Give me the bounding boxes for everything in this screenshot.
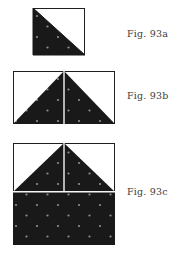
figure-93a-label: Fig. 93a <box>127 28 168 39</box>
figure-93b-label: Fig. 93b <box>127 90 169 101</box>
figure-93b-diagram <box>13 71 115 124</box>
figure-93c-diagram <box>13 143 115 245</box>
book-page: Fig. 93a Fig. 93b Fig. 93c <box>0 0 187 254</box>
figure-93c-label: Fig. 93c <box>127 186 168 197</box>
figure-93a-diagram <box>33 8 85 55</box>
shaded-bottom-rectangle <box>13 192 115 245</box>
